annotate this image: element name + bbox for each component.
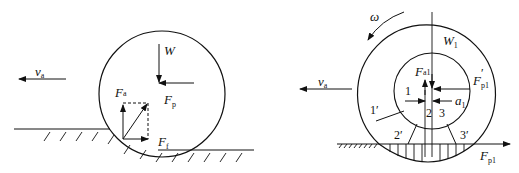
zone-label-2: 2 [426, 106, 432, 120]
velocity-label: va [35, 64, 45, 80]
omega-label: ω [370, 9, 379, 24]
pressure-distribution [390, 144, 464, 162]
friction-force-label: Ff [157, 134, 169, 151]
left-figure [14, 31, 254, 162]
zone-label-1: 1 [405, 84, 411, 98]
ground-force-label: Fp1 [479, 148, 496, 165]
reaction-force-label: Fa [114, 85, 127, 100]
zone-label-3: 3 [439, 106, 445, 120]
ground-hatching [44, 132, 242, 162]
zone-label-3-prime: 3′ [460, 128, 469, 142]
push-force-prime-label: Fp1′ [472, 66, 489, 90]
velocity-label-right: va [318, 74, 328, 90]
zone-label-2-prime: 2′ [394, 128, 403, 142]
push-force-label: Fp [163, 92, 176, 109]
tire-outline [358, 25, 496, 162]
left-labels: va W Fp Fa Ff [35, 43, 176, 151]
offset-label: a1 [455, 93, 466, 110]
weight-label: W [164, 43, 176, 58]
resultant-arrow [123, 104, 147, 139]
normal-force-label: Fa1 [414, 64, 431, 79]
weight-label-right: W1 [443, 33, 458, 50]
wheel-force-diagram: va W Fp Fa Ff [0, 0, 519, 173]
zone-label-1-prime: 1′ [370, 103, 379, 117]
